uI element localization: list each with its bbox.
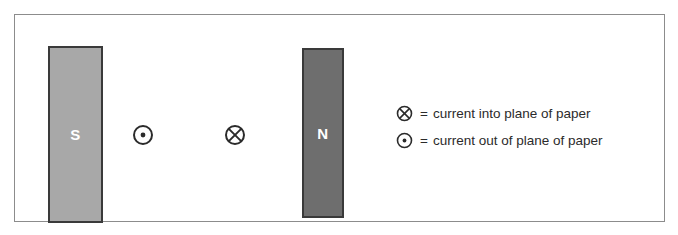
current-into-page-symbol (221, 121, 249, 153)
legend: = current into plane of paper = current … (393, 103, 603, 151)
current-out-of-page-symbol (129, 121, 157, 153)
diagram-canvas: S N (0, 0, 678, 235)
north-pole-label: N (317, 126, 328, 141)
diagram-frame: S N (14, 14, 665, 222)
legend-row-into-page: = current into plane of paper (393, 103, 603, 124)
legend-label-into-page: current into plane of paper (433, 106, 591, 121)
circle-cross-icon (221, 121, 249, 149)
south-pole-label: S (70, 127, 81, 142)
circle-cross-icon (393, 103, 415, 124)
circle-dot-icon (393, 130, 415, 151)
south-pole-magnet: S (48, 46, 103, 223)
north-pole-magnet: N (302, 48, 344, 218)
legend-equals-sign: = (415, 106, 433, 121)
legend-row-out-of-page: = current out of plane of paper (393, 130, 603, 151)
legend-label-out-of-page: current out of plane of paper (433, 133, 603, 148)
circle-dot-icon (129, 121, 157, 149)
legend-equals-sign: = (415, 133, 433, 148)
